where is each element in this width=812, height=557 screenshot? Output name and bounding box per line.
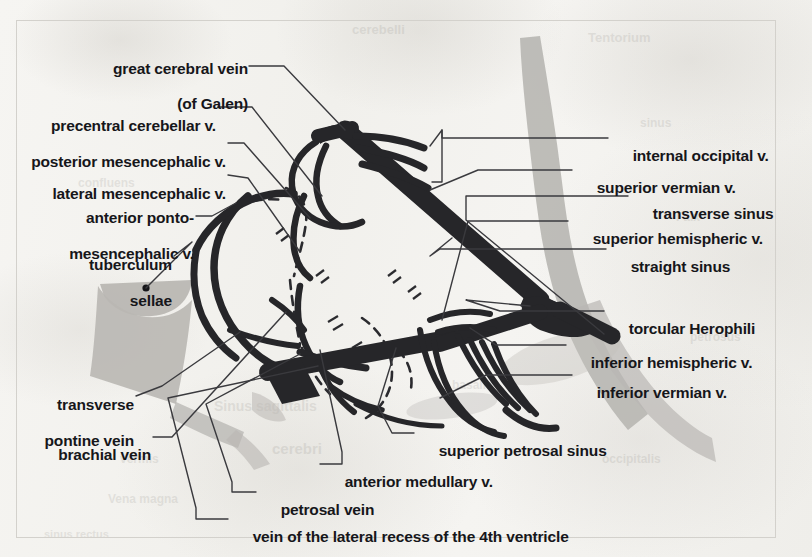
label-tuberculum-sellae: tuberculum sellae [10, 238, 172, 328]
tick-4 [321, 277, 329, 283]
label-brachial-vein-text: brachial vein [58, 446, 151, 463]
label-transverse-pontine-vein-line1: transverse [57, 396, 134, 413]
tick-2 [281, 235, 289, 241]
tick-10 [393, 277, 401, 283]
label-straight-sinus-text: straight sinus [631, 258, 731, 275]
label-vein-of-lateral-recess: vein of the lateral recess of the 4th ve… [236, 510, 569, 557]
label-tuberculum-sellae-line2: sellae [130, 292, 172, 309]
label-tuberculum-sellae-line1: tuberculum [89, 256, 172, 273]
label-great-cerebral-vein-line1: great cerebral vein [113, 60, 248, 77]
tick-11 [408, 286, 416, 292]
tick-6 [333, 324, 343, 330]
tick-9 [388, 270, 396, 276]
label-vein-of-lateral-recess-text: vein of the lateral recess of the 4th ve… [253, 528, 569, 545]
precentral-cerebellar-v-vessel [316, 146, 340, 226]
tick-3 [316, 270, 324, 276]
label-inferior-vermian-v: inferior vermian v. [580, 366, 727, 419]
superior-hemispheric-v-vessel-1 [430, 312, 490, 320]
label-precentral-cerebellar-v-text: precentral cerebellar v. [51, 117, 216, 134]
label-straight-sinus: straight sinus [614, 240, 730, 293]
tick-1 [276, 228, 284, 234]
label-anterior-pontomesencephalic-v-line1: anterior ponto- [86, 209, 194, 226]
leader-internal-occipital-v [430, 130, 608, 146]
figure-page: TentoriumcerebellisinusconfluensFalxpetr… [0, 0, 812, 557]
label-inferior-vermian-v-text: inferior vermian v. [597, 384, 727, 401]
label-torcular-herophili-text: torcular Herophili [629, 320, 756, 337]
petrous-tip-shading [226, 430, 270, 470]
tick-12 [413, 293, 421, 299]
label-brachial-vein: brachial vein [10, 428, 151, 481]
tick-5 [328, 316, 338, 322]
